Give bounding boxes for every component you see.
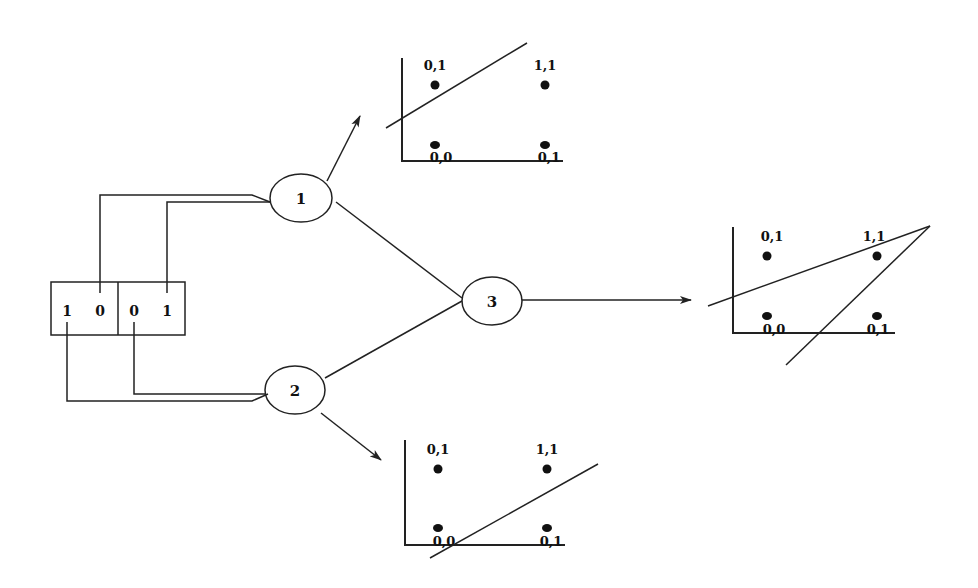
point-icon: [540, 141, 550, 149]
point-label: 0,0: [763, 322, 786, 337]
edge-1-to-3: [336, 202, 462, 298]
arrow-node-2-to-bottom-plot: [321, 413, 381, 460]
point-icon: [434, 465, 443, 474]
point-label: 0,1: [427, 442, 450, 457]
point-icon: [431, 81, 440, 90]
point-label: 1,1: [863, 229, 886, 244]
decision-boundary-b: [786, 226, 930, 365]
point-icon: [542, 524, 552, 532]
input-bit-a1: 1: [62, 303, 72, 319]
point-icon: [762, 312, 772, 320]
input-bit-b1: 0: [129, 303, 139, 319]
arrow-node-1-to-top-plot: [327, 116, 360, 181]
wires-to-node-1: [100, 195, 270, 293]
xor-network-diagram: 1 0 0 1 1 2 3 0,1 1,1: [0, 0, 978, 588]
point-label: 0,1: [538, 150, 561, 165]
wires-to-node-2: [67, 322, 268, 401]
point-label: 1,1: [536, 442, 559, 457]
point-label: 0,1: [867, 322, 890, 337]
node-2: 2: [265, 366, 325, 414]
point-label: 0,1: [761, 229, 784, 244]
point-label: 1,1: [534, 58, 557, 73]
point-icon: [873, 252, 882, 261]
node-3-label: 3: [487, 293, 497, 311]
point-label: 0,0: [433, 534, 456, 549]
point-icon: [763, 252, 772, 261]
node-2-label: 2: [290, 382, 300, 400]
input-bit-b2: 1: [162, 303, 172, 319]
point-label: 0,1: [424, 58, 447, 73]
decision-boundary: [430, 464, 598, 558]
node-1-label: 1: [296, 190, 306, 208]
decision-boundary: [386, 43, 527, 128]
node-3: 3: [462, 277, 522, 325]
point-icon: [872, 312, 882, 320]
input-bit-a2: 0: [95, 303, 105, 319]
edge-2-to-3: [325, 301, 462, 378]
point-label: 0,1: [540, 534, 563, 549]
top-plot: 0,1 1,1 0,0 0,1: [386, 43, 563, 165]
point-label: 0,0: [430, 150, 453, 165]
node-1: 1: [270, 174, 332, 222]
bottom-plot: 0,1 1,1 0,0 0,1: [405, 440, 598, 558]
right-plot: 0,1 1,1 0,0 0,1: [708, 226, 930, 365]
point-icon: [543, 465, 552, 474]
point-icon: [433, 524, 443, 532]
decision-boundary-a: [708, 226, 930, 306]
point-icon: [541, 81, 550, 90]
point-icon: [430, 141, 440, 149]
input-box: 1 0 0 1: [51, 282, 185, 335]
